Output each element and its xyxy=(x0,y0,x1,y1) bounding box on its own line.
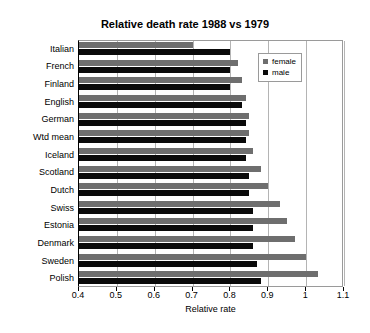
bar-female xyxy=(79,236,295,242)
y-axis-label: Estonia xyxy=(2,220,74,230)
bar-female xyxy=(79,113,249,119)
x-tick-label: 0.6 xyxy=(134,290,174,300)
bar-row xyxy=(79,217,342,235)
bar-female xyxy=(79,201,280,207)
bar-row xyxy=(79,112,342,130)
bars-layer xyxy=(79,41,342,286)
x-tick-label: 0.4 xyxy=(58,290,98,300)
x-axis-title: Relative rate xyxy=(78,304,343,314)
bar-female xyxy=(79,60,238,66)
bar-row xyxy=(79,165,342,183)
bar-male xyxy=(79,102,242,108)
y-axis-label: Dutch xyxy=(2,185,74,195)
bar-female xyxy=(79,254,306,260)
bar-row xyxy=(79,147,342,165)
bar-female xyxy=(79,95,246,101)
bar-row xyxy=(79,94,342,112)
bar-row xyxy=(79,59,342,77)
y-axis-label: Sweden xyxy=(2,256,74,266)
gridline xyxy=(344,41,345,286)
y-axis-label: Denmark xyxy=(2,238,74,248)
x-tick-label: 0.5 xyxy=(96,290,136,300)
y-axis-label: Wtd mean xyxy=(2,132,74,142)
bar-row xyxy=(79,76,342,94)
bar-female xyxy=(79,218,287,224)
bar-female xyxy=(79,271,318,277)
x-tick-label: 0.7 xyxy=(172,290,212,300)
x-tick-label: 0.8 xyxy=(209,290,249,300)
bar-row xyxy=(79,235,342,253)
y-axis-label: Italian xyxy=(2,44,74,54)
bar-row xyxy=(79,182,342,200)
bar-row xyxy=(79,270,342,288)
bar-male xyxy=(79,67,230,73)
bar-female xyxy=(79,166,261,172)
bar-male xyxy=(79,261,257,267)
y-axis-label: Polish xyxy=(2,273,74,283)
bar-male xyxy=(79,208,253,214)
x-tick-label: 0.9 xyxy=(247,290,287,300)
bar-female xyxy=(79,148,253,154)
plot-area xyxy=(78,40,343,287)
bar-female xyxy=(79,183,268,189)
bar-row xyxy=(79,129,342,147)
legend-swatch-female-icon xyxy=(263,59,268,64)
bar-male xyxy=(79,225,253,231)
bar-row xyxy=(79,41,342,59)
chart-container: Relative death rate 1988 vs 1979 Italian… xyxy=(0,0,370,333)
y-axis-label: French xyxy=(2,61,74,71)
bar-male xyxy=(79,84,230,90)
y-axis-label: German xyxy=(2,114,74,124)
bar-male xyxy=(79,155,246,161)
bar-male xyxy=(79,243,253,249)
y-axis-label: Finland xyxy=(2,79,74,89)
y-axis-label: English xyxy=(2,97,74,107)
bar-female xyxy=(79,130,249,136)
y-axis-category-labels: ItalianFrenchFinlandEnglishGermanWtd mea… xyxy=(0,40,74,287)
legend-item-male: male xyxy=(263,67,296,78)
bar-male xyxy=(79,173,249,179)
bar-row xyxy=(79,200,342,218)
y-axis-label: Scotland xyxy=(2,167,74,177)
bar-male xyxy=(79,49,230,55)
legend-swatch-male-icon xyxy=(263,70,268,75)
x-tick-label: 1.1 xyxy=(323,290,363,300)
bar-male xyxy=(79,120,246,126)
legend-item-female: female xyxy=(263,56,296,67)
chart-title: Relative death rate 1988 vs 1979 xyxy=(0,18,370,30)
legend-label-female: female xyxy=(272,57,296,66)
chart-legend: female male xyxy=(258,53,302,82)
y-axis-label: Swiss xyxy=(2,203,74,213)
bar-male xyxy=(79,137,246,143)
bar-row xyxy=(79,253,342,271)
bar-female xyxy=(79,77,242,83)
bar-female xyxy=(79,42,193,48)
x-tick-label: 1 xyxy=(285,290,325,300)
bar-male xyxy=(79,190,249,196)
bar-male xyxy=(79,278,261,284)
legend-label-male: male xyxy=(272,68,289,77)
y-axis-label: Iceland xyxy=(2,150,74,160)
